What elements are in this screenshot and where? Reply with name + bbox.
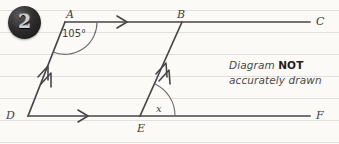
geometry-question-screenshot: 2 A B C D E F 105° x Diagram NOT accurat… bbox=[0, 0, 339, 144]
angle-label-105: 105° bbox=[62, 29, 86, 39]
note-emphasis-not: NOT bbox=[278, 59, 303, 71]
note-line-2: accurately drawn bbox=[229, 73, 339, 88]
question-number-badge: 2 bbox=[8, 6, 41, 39]
question-number-text: 2 bbox=[18, 12, 31, 31]
vertex-label-E: E bbox=[137, 123, 145, 134]
vertex-label-A: A bbox=[66, 9, 74, 20]
vertex-label-F: F bbox=[316, 110, 324, 121]
vertex-label-B: B bbox=[177, 9, 185, 20]
angle-label-x: x bbox=[156, 104, 162, 114]
vertex-label-D: D bbox=[6, 110, 15, 121]
vertex-label-C: C bbox=[316, 16, 324, 27]
note-line-1-prefix: Diagram bbox=[229, 59, 278, 71]
note-line-1: Diagram NOT bbox=[229, 58, 339, 73]
diagram-note: Diagram NOT accurately drawn bbox=[229, 58, 339, 88]
